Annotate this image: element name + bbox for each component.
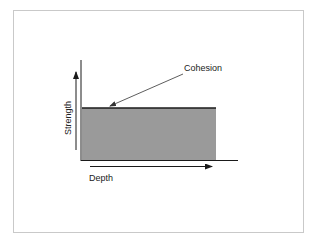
strength-label: Strength — [63, 101, 73, 135]
cohesion-region — [82, 108, 216, 160]
strength-depth-diagram: Cohesion Depth Strength — [0, 0, 312, 241]
cohesion-pointer-arrow-icon — [110, 74, 183, 106]
depth-label: Depth — [89, 173, 113, 183]
cohesion-label: Cohesion — [184, 63, 222, 73]
